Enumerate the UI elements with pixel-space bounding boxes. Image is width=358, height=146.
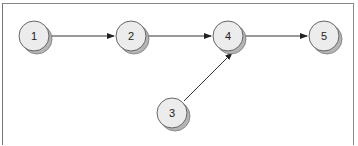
node-5[interactable]: 5 — [309, 21, 342, 54]
node-label: 2 — [128, 30, 134, 42]
node-label: 1 — [31, 30, 37, 42]
node-1[interactable]: 1 — [19, 21, 52, 54]
node-2[interactable]: 2 — [116, 21, 149, 54]
node-label: 5 — [321, 30, 327, 42]
node-4[interactable]: 4 — [213, 21, 246, 54]
node-3[interactable]: 3 — [157, 98, 190, 131]
graph-canvas: 1 2 4 5 3 — [0, 0, 358, 146]
node-label: 3 — [169, 107, 175, 119]
edge-3-4 — [184, 53, 232, 101]
node-label: 4 — [225, 30, 231, 42]
